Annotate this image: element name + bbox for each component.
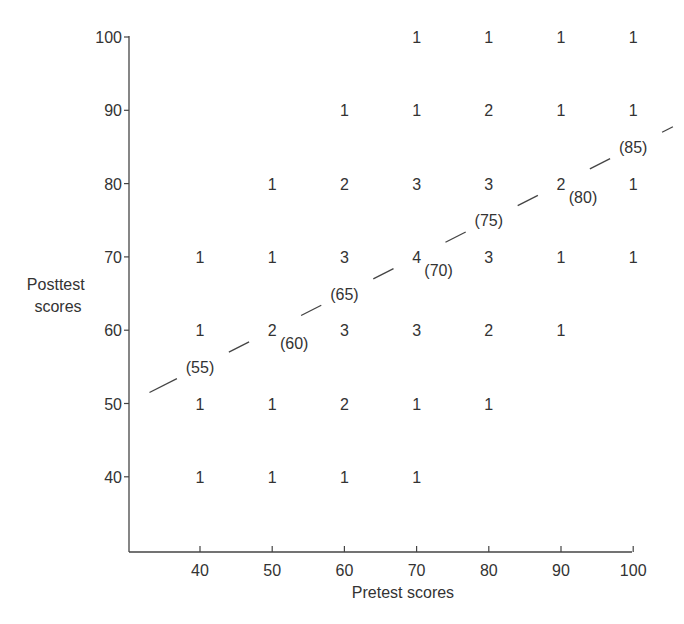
frequency-count: 3 bbox=[340, 322, 349, 339]
y-tick-label: 90 bbox=[104, 102, 122, 119]
frequency-count: 2 bbox=[340, 396, 349, 413]
frequency-count: 1 bbox=[629, 176, 638, 193]
frequency-count: 1 bbox=[484, 396, 493, 413]
frequency-count: 3 bbox=[340, 249, 349, 266]
frequency-count: 1 bbox=[412, 29, 421, 46]
frequency-count: 2 bbox=[484, 322, 493, 339]
frequency-count: 3 bbox=[412, 322, 421, 339]
x-tick-label: 40 bbox=[191, 562, 209, 579]
y-axis-title-line-2: scores bbox=[34, 298, 81, 315]
predicted-value-label: (85) bbox=[619, 139, 647, 156]
x-tick-label: 70 bbox=[408, 562, 426, 579]
y-tick-label: 70 bbox=[104, 249, 122, 266]
frequency-count: 1 bbox=[268, 176, 277, 193]
y-tick-label: 40 bbox=[104, 469, 122, 486]
frequency-count: 1 bbox=[484, 29, 493, 46]
predicted-value-label: (55) bbox=[186, 359, 214, 376]
predicted-value-label: (75) bbox=[475, 212, 503, 229]
frequency-count: 1 bbox=[557, 29, 566, 46]
regression-line-segment bbox=[149, 379, 176, 393]
x-axis-ticks: 405060708090100 bbox=[191, 546, 647, 579]
frequency-count: 1 bbox=[629, 29, 638, 46]
y-tick-label: 80 bbox=[104, 176, 122, 193]
frequency-count: 4 bbox=[412, 249, 421, 266]
regression-line-segment bbox=[518, 195, 538, 205]
frequency-count: 3 bbox=[484, 249, 493, 266]
frequency-count: 1 bbox=[196, 469, 205, 486]
frequency-count: 1 bbox=[268, 249, 277, 266]
x-tick-label: 50 bbox=[263, 562, 281, 579]
y-tick-label: 50 bbox=[104, 396, 122, 413]
frequency-count: 1 bbox=[196, 249, 205, 266]
frequency-count: 1 bbox=[340, 102, 349, 119]
frequency-count: 1 bbox=[629, 102, 638, 119]
predicted-value-label: (80) bbox=[569, 189, 597, 206]
regression-line-segment bbox=[229, 342, 249, 352]
x-tick-label: 60 bbox=[336, 562, 354, 579]
frequency-count: 2 bbox=[268, 322, 277, 339]
x-axis-title: Pretest scores bbox=[352, 584, 454, 601]
predicted-value-label: (65) bbox=[330, 286, 358, 303]
frequency-count: 1 bbox=[412, 469, 421, 486]
x-tick-label: 80 bbox=[480, 562, 498, 579]
regression-line-segment bbox=[590, 159, 610, 169]
y-tick-label: 60 bbox=[104, 322, 122, 339]
frequency-count: 1 bbox=[557, 102, 566, 119]
regression-line-segment bbox=[445, 232, 465, 242]
y-axis-title-line-1: Posttest bbox=[27, 276, 85, 293]
frequency-count: 1 bbox=[557, 322, 566, 339]
frequency-count: 1 bbox=[557, 249, 566, 266]
frequency-count: 1 bbox=[340, 469, 349, 486]
frequency-count: 2 bbox=[340, 176, 349, 193]
frequency-count: 1 bbox=[268, 469, 277, 486]
frequency-cells: 1111112111233211134311123321112111111 bbox=[196, 29, 638, 486]
frequency-count: 3 bbox=[412, 176, 421, 193]
y-axis-ticks: 405060708090100 bbox=[95, 29, 129, 486]
y-axis-title: Posttest scores bbox=[27, 276, 89, 315]
frequency-count: 2 bbox=[557, 176, 566, 193]
regression-line-segment bbox=[662, 127, 673, 132]
frequency-count: 2 bbox=[484, 102, 493, 119]
frequency-count: 1 bbox=[629, 249, 638, 266]
y-tick-label: 100 bbox=[95, 29, 122, 46]
frequency-count: 1 bbox=[196, 322, 205, 339]
regression-line-segment bbox=[373, 269, 393, 279]
x-tick-label: 100 bbox=[620, 562, 647, 579]
frequency-scatterplot: 405060708090100 405060708090100 11111121… bbox=[0, 0, 684, 624]
frequency-count: 1 bbox=[412, 102, 421, 119]
x-tick-label: 90 bbox=[552, 562, 570, 579]
predicted-value-label: (60) bbox=[280, 335, 308, 352]
frequency-count: 1 bbox=[268, 396, 277, 413]
regression-line-segment bbox=[301, 305, 321, 315]
predicted-value-label: (70) bbox=[424, 262, 452, 279]
frequency-count: 3 bbox=[484, 176, 493, 193]
frequency-count: 1 bbox=[412, 396, 421, 413]
frequency-count: 1 bbox=[196, 396, 205, 413]
